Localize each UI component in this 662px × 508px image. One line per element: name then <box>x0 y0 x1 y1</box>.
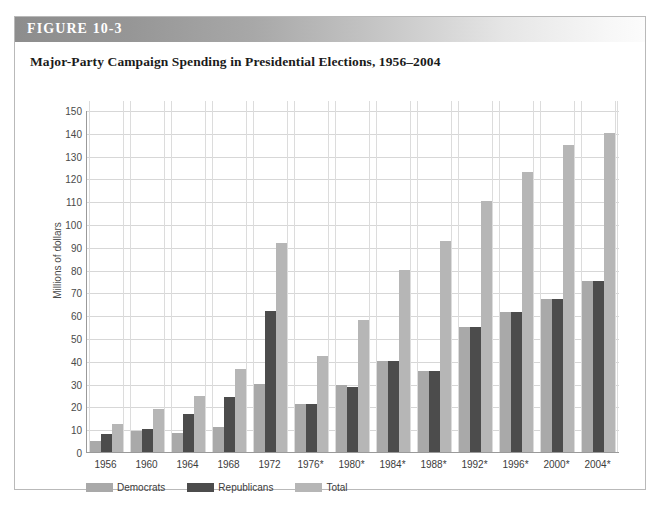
figure-header-bar: FIGURE 10-3 <box>15 17 645 42</box>
y-tick-label: 60 <box>40 311 82 322</box>
gridline-vertical <box>451 101 452 452</box>
gridline-vertical <box>492 101 493 452</box>
gridline-vertical <box>617 101 618 452</box>
bar-republicans-1976 <box>306 404 317 452</box>
bar-republicans-1984 <box>388 361 399 452</box>
gridline-vertical <box>205 101 206 452</box>
gridline-vertical <box>246 101 247 452</box>
bar-total-1964 <box>194 396 205 452</box>
bar-democrats-1992 <box>459 327 470 452</box>
y-tick-label: 40 <box>40 356 82 367</box>
bar-republicans-1972 <box>265 311 276 452</box>
legend-label: Republicans <box>218 482 273 493</box>
bar-republicans-2000 <box>552 299 563 452</box>
y-tick-label: 140 <box>40 128 82 139</box>
bar-republicans-1956 <box>101 434 112 452</box>
y-tick-label: 90 <box>40 242 82 253</box>
y-tick-label: 10 <box>40 425 82 436</box>
bar-republicans-1996 <box>511 312 522 452</box>
figure-container: FIGURE 10-3 Major-Party Campaign Spendin… <box>14 16 646 490</box>
bar-total-2000 <box>563 145 574 452</box>
bar-democrats-2000 <box>541 299 552 452</box>
gridline-vertical <box>369 101 370 452</box>
chart-legend: DemocratsRepublicansTotal <box>86 482 364 493</box>
bar-group <box>418 111 451 452</box>
bar-democrats-1964 <box>172 433 183 452</box>
bar-total-1992 <box>481 201 492 452</box>
bar-total-1956 <box>112 424 123 453</box>
y-tick-label: 0 <box>40 448 82 459</box>
bar-republicans-2004 <box>593 281 604 452</box>
bar-republicans-1964 <box>183 414 194 452</box>
y-tick-label: 110 <box>40 197 82 208</box>
legend-item-total: Total <box>295 482 347 493</box>
legend-swatch-republicans <box>187 483 214 492</box>
bar-group <box>295 111 328 452</box>
y-tick-label: 30 <box>40 379 82 390</box>
gridline-vertical <box>123 101 124 452</box>
y-tick-label: 100 <box>40 220 82 231</box>
figure-title: Major-Party Campaign Spending in Preside… <box>30 54 630 70</box>
bar-total-1984 <box>399 270 410 452</box>
bar-group <box>500 111 533 452</box>
bar-democrats-1988 <box>418 371 429 452</box>
x-tick-label: 2004* <box>568 459 628 470</box>
bar-total-1976 <box>317 356 328 452</box>
figure-number-label: FIGURE 10-3 <box>27 21 123 37</box>
plot-area <box>86 111 619 453</box>
legend-item-democrats: Democrats <box>86 482 165 493</box>
y-tick-label: 80 <box>40 265 82 276</box>
bar-democrats-1996 <box>500 312 511 452</box>
bar-group <box>377 111 410 452</box>
y-tick-label: 70 <box>40 288 82 299</box>
bar-republicans-1960 <box>142 429 153 452</box>
bar-group <box>90 111 123 452</box>
legend-label: Democrats <box>117 482 165 493</box>
bar-republicans-1992 <box>470 327 481 452</box>
bar-group <box>541 111 574 452</box>
legend-swatch-total <box>295 483 322 492</box>
y-tick-label: 130 <box>40 151 82 162</box>
bar-total-2004 <box>604 133 615 452</box>
bar-group <box>459 111 492 452</box>
bar-group <box>213 111 246 452</box>
legend-swatch-democrats <box>86 483 113 492</box>
y-tick-label: 20 <box>40 402 82 413</box>
gridline-vertical <box>164 101 165 452</box>
bar-total-1968 <box>235 369 246 452</box>
y-tick-label: 120 <box>40 174 82 185</box>
bar-group <box>131 111 164 452</box>
gridline-vertical <box>287 101 288 452</box>
gridline-vertical <box>533 101 534 452</box>
legend-label: Total <box>326 482 347 493</box>
bar-democrats-2004 <box>582 281 593 452</box>
bar-democrats-1968 <box>213 427 224 452</box>
bar-democrats-1956 <box>90 441 101 452</box>
bar-democrats-1960 <box>131 431 142 452</box>
y-axis-tick-labels: 0102030405060708090100110120130140150 <box>38 111 82 453</box>
bar-democrats-1972 <box>254 384 265 452</box>
bar-total-1960 <box>153 409 164 452</box>
gridline-vertical <box>615 101 616 452</box>
gridline-vertical <box>328 101 329 452</box>
bar-group <box>582 111 615 452</box>
bar-total-1996 <box>522 172 533 452</box>
bar-total-1972 <box>276 243 287 452</box>
gridline-vertical <box>574 101 575 452</box>
bar-republicans-1968 <box>224 397 235 452</box>
bar-group <box>172 111 205 452</box>
y-tick-label: 150 <box>40 106 82 117</box>
bar-democrats-1980 <box>336 385 347 452</box>
bar-democrats-1984 <box>377 361 388 452</box>
legend-item-republicans: Republicans <box>187 482 273 493</box>
y-tick-label: 50 <box>40 334 82 345</box>
bar-democrats-1976 <box>295 404 306 452</box>
bar-republicans-1988 <box>429 371 440 452</box>
bar-group <box>254 111 287 452</box>
bar-group <box>336 111 369 452</box>
bar-total-1988 <box>440 241 451 452</box>
bar-republicans-1980 <box>347 387 358 452</box>
gridline-vertical <box>410 101 411 452</box>
bar-total-1980 <box>358 320 369 452</box>
chart: Millions of dollars 01020304050607080901… <box>38 87 626 482</box>
